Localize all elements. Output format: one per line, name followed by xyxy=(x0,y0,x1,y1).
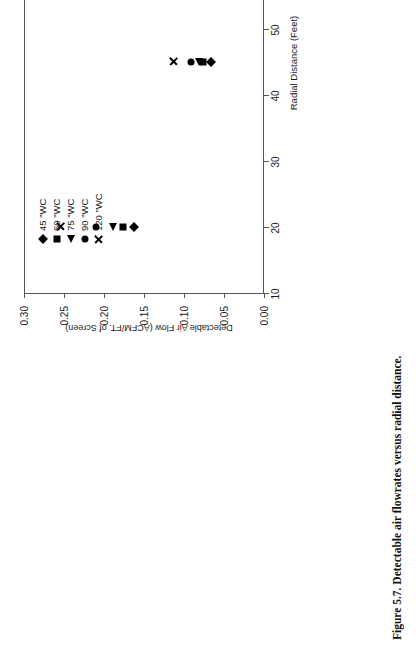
data-point-marker xyxy=(129,222,139,232)
x-axis-tick-label: 40 xyxy=(269,90,282,101)
legend-item: 120 "WC xyxy=(92,193,105,246)
x-axis-tick-labels: 1020304050607080 xyxy=(269,0,285,294)
figure-caption-holder: Figure 5.7. Detectable air flowrates ver… xyxy=(386,640,408,666)
plot-area xyxy=(24,0,264,294)
legend-item-label: 75 "WC xyxy=(65,199,76,231)
chart-legend: 45 "WC60 "WC75 "WC90 "WC120 "WC xyxy=(36,193,105,246)
y-axis-tick xyxy=(144,293,145,298)
legend-item: 45 "WC xyxy=(36,193,49,246)
x-axis-title: Radial Distance (Feet) xyxy=(288,0,299,294)
legend-item-label: 45 "WC xyxy=(37,199,48,231)
data-point-marker xyxy=(195,58,203,66)
x-axis-tick-label: 20 xyxy=(269,222,282,233)
x-axis-tick-label: 10 xyxy=(269,288,282,299)
data-point-marker xyxy=(187,59,194,66)
data-point-marker xyxy=(120,224,127,231)
legend-item-label: 90 "WC xyxy=(79,199,90,231)
x-axis-tick-label: 50 xyxy=(269,24,282,35)
legend-item: 90 "WC xyxy=(78,193,91,246)
diamond-icon xyxy=(37,233,48,246)
legend-item-label: 120 "WC xyxy=(93,193,104,231)
figure-page: 45 "WC60 "WC75 "WC90 "WC120 "WC 10203040… xyxy=(0,0,416,666)
y-axis-tick xyxy=(264,293,265,298)
y-axis-tick xyxy=(224,293,225,298)
data-point-marker xyxy=(169,58,178,67)
x-axis-tick-label: 30 xyxy=(269,156,282,167)
y-axis-tick xyxy=(24,293,25,298)
y-axis-tick xyxy=(104,293,105,298)
legend-item-label: 60 "WC xyxy=(51,199,62,231)
circle-icon xyxy=(79,233,90,246)
data-point-marker xyxy=(109,223,117,231)
chart-plot-stage: 45 "WC60 "WC75 "WC90 "WC120 "WC 10203040… xyxy=(10,0,340,356)
data-point-marker xyxy=(206,57,216,67)
y-axis-title: Detectable Air Flow (ACFM/FT. of Screen) xyxy=(29,323,269,333)
legend-item: 75 "WC xyxy=(64,193,77,246)
cross-icon xyxy=(93,233,104,246)
legend-item: 60 "WC xyxy=(50,193,63,246)
triangle-icon xyxy=(65,233,76,246)
y-axis-ticks xyxy=(24,293,264,299)
figure-caption: Figure 5.7. Detectable air flowrates ver… xyxy=(386,40,408,640)
y-axis-tick xyxy=(184,293,185,298)
square-icon xyxy=(51,233,62,246)
y-axis-tick xyxy=(64,293,65,298)
